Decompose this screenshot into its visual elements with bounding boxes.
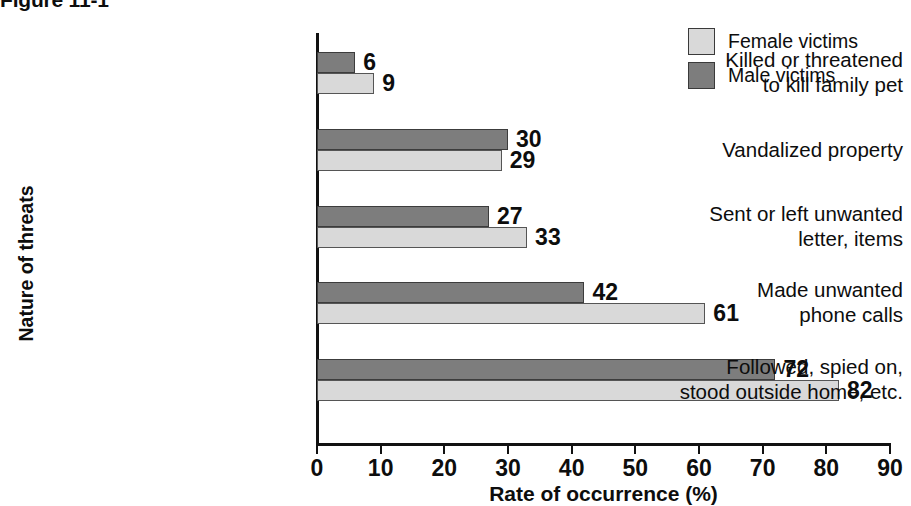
- x-tick-label-90: 90: [877, 455, 903, 482]
- bar-value-male-0: 6: [363, 52, 376, 73]
- x-tick-50: [634, 443, 636, 454]
- bar-value-male-2: 27: [497, 206, 523, 227]
- x-axis-title: Rate of occurrence (%): [316, 482, 891, 506]
- bar-value-female-0: 9: [382, 73, 395, 94]
- x-tick-30: [507, 443, 509, 454]
- category-label-line: phone calls: [615, 302, 903, 327]
- category-label-1: Vandalized property: [615, 137, 911, 162]
- category-label-line: to kill family pet: [615, 72, 903, 97]
- x-tick-label-10: 10: [368, 455, 394, 482]
- category-label-line: Killed or threatened: [615, 47, 903, 72]
- category-label-2: Sent or left unwantedletter, items: [615, 201, 911, 251]
- x-tick-label-60: 60: [686, 455, 712, 482]
- category-label-4: Followed, spied on,stood outside home, e…: [615, 354, 911, 404]
- bar-female-0: [317, 73, 374, 94]
- x-tick-0: [316, 443, 318, 454]
- x-tick-label-80: 80: [814, 455, 840, 482]
- bar-value-female-1: 29: [510, 150, 536, 171]
- category-label-0: Killed or threatenedto kill family pet: [615, 47, 911, 97]
- bar-female-1: [317, 150, 502, 171]
- x-tick-label-40: 40: [559, 455, 585, 482]
- category-label-line: letter, items: [615, 226, 903, 251]
- x-axis-line: [316, 443, 891, 446]
- category-label-line: Sent or left unwanted: [615, 201, 903, 226]
- x-tick-label-20: 20: [432, 455, 458, 482]
- y-axis-title: Nature of threats: [15, 154, 38, 374]
- x-tick-10: [380, 443, 382, 454]
- bar-male-2: [317, 206, 489, 227]
- category-label-line: stood outside home, etc.: [615, 379, 903, 404]
- category-label-3: Made unwantedphone calls: [615, 277, 911, 327]
- x-tick-label-50: 50: [623, 455, 649, 482]
- x-tick-90: [889, 443, 891, 454]
- x-tick-70: [762, 443, 764, 454]
- bar-male-1: [317, 129, 508, 150]
- x-tick-80: [825, 443, 827, 454]
- bar-male-0: [317, 52, 355, 73]
- x-tick-40: [571, 443, 573, 454]
- category-label-line: Vandalized property: [615, 137, 903, 162]
- bar-female-2: [317, 227, 527, 248]
- bar-value-female-2: 33: [535, 227, 561, 248]
- x-tick-60: [698, 443, 700, 454]
- x-tick-20: [443, 443, 445, 454]
- x-tick-label-70: 70: [750, 455, 776, 482]
- bar-male-3: [317, 282, 584, 303]
- x-tick-label-0: 0: [311, 455, 324, 482]
- category-label-line: Followed, spied on,: [615, 354, 903, 379]
- category-label-line: Made unwanted: [615, 277, 903, 302]
- x-tick-label-30: 30: [495, 455, 521, 482]
